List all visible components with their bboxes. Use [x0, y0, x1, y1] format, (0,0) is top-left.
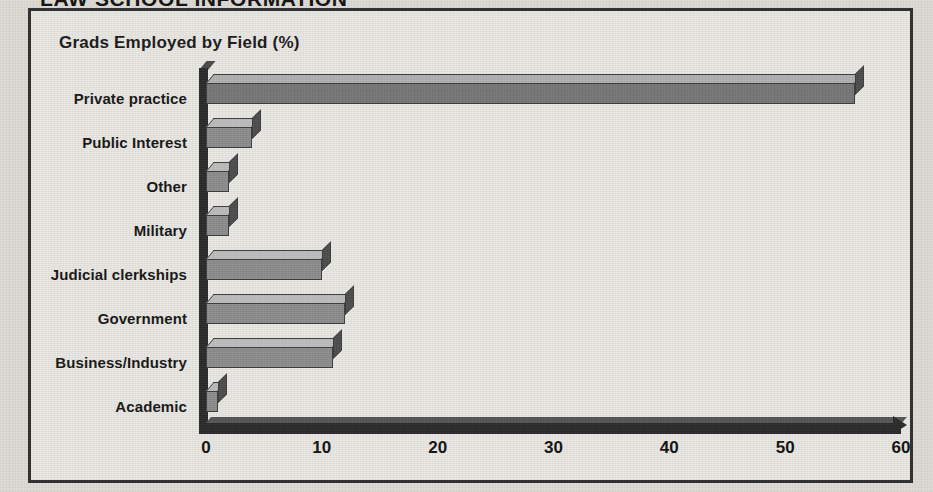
x-axis: [199, 423, 901, 434]
bar-business-industry: [206, 347, 333, 368]
bar-private-practice: [206, 83, 855, 104]
x-tick-60: 60: [892, 438, 911, 458]
bar-front-face: [206, 83, 855, 104]
bar-military: [206, 215, 229, 236]
bar-front-face: [206, 171, 229, 192]
x-axis-arrow-icon: [893, 416, 907, 434]
bar-top-face: [206, 74, 862, 83]
x-tick-0: 0: [201, 438, 210, 458]
category-label-private-practice: Private practice: [74, 90, 187, 107]
bar-other: [206, 171, 229, 192]
bar-front-face: [206, 391, 218, 412]
plot-area: Private practice Public Interest Other M…: [31, 11, 910, 480]
category-label-military: Military: [134, 222, 187, 239]
category-label-other: Other: [146, 178, 187, 195]
bar-side-face: [218, 373, 227, 403]
bar-front-face: [206, 127, 252, 148]
bar-side-face: [855, 65, 864, 95]
category-label-judicial-clerkships: Judicial clerkships: [51, 266, 187, 283]
x-tick-30: 30: [544, 438, 563, 458]
bar-side-face: [345, 285, 354, 315]
bar-side-face: [229, 197, 238, 227]
bar-side-face: [252, 109, 261, 139]
bar-top-face: [206, 294, 353, 303]
category-label-academic: Academic: [115, 398, 187, 415]
bar-academic: [206, 391, 218, 412]
y-axis: [199, 68, 208, 431]
x-tick-50: 50: [776, 438, 795, 458]
bar-front-face: [206, 303, 345, 324]
chart-frame: Grads Employed by Field (%) Private prac…: [28, 8, 913, 483]
bar-front-face: [206, 347, 333, 368]
category-label-public-interest: Public Interest: [82, 134, 187, 151]
bar-top-face: [206, 338, 341, 347]
bar-judicial-clerkships: [206, 259, 322, 280]
category-label-government: Government: [98, 310, 187, 327]
bar-front-face: [206, 259, 322, 280]
x-tick-10: 10: [312, 438, 331, 458]
bar-public-interest: [206, 127, 252, 148]
bar-top-face: [206, 250, 330, 259]
bar-side-face: [322, 241, 331, 271]
bar-side-face: [229, 153, 238, 183]
bar-government: [206, 303, 345, 324]
category-label-business-industry: Business/Industry: [55, 354, 187, 371]
bar-side-face: [333, 329, 342, 359]
bar-front-face: [206, 215, 229, 236]
x-tick-20: 20: [428, 438, 447, 458]
x-tick-40: 40: [660, 438, 679, 458]
